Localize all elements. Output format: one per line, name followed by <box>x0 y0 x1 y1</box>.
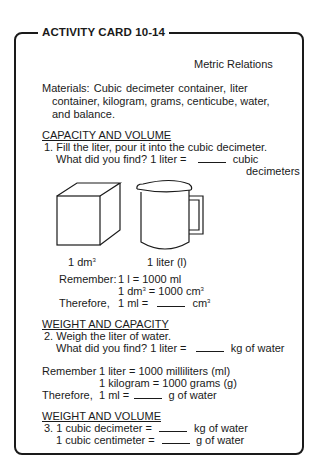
materials-line-1: Materials: Cubic decimeter container, li… <box>42 82 248 95</box>
step-2-question: What did you find? 1 liter = kg of water <box>56 342 284 355</box>
cube-icon <box>54 180 124 250</box>
question-text: What did you find? 1 liter = <box>56 153 187 165</box>
therefore-1: 1 ml = cm3 <box>118 297 210 310</box>
question-unit-2: decimeters <box>246 165 300 178</box>
therefore-label-2: Therefore, <box>42 389 93 402</box>
answer-blank[interactable] <box>157 298 185 307</box>
card-subtitle: Metric Relations <box>194 58 273 71</box>
therefore-label-1: Therefore, <box>59 297 110 310</box>
pitcher-label: 1 liter (l) <box>147 256 187 269</box>
question-unit: cubic <box>233 153 259 165</box>
answer-blank[interactable] <box>159 423 187 432</box>
materials-line-2: container, kilogram, grams, centicube, w… <box>52 95 270 108</box>
cube-label: 1 dm3 <box>68 256 96 269</box>
pitcher-icon <box>133 178 208 253</box>
remember-label-2: Remember <box>42 365 96 378</box>
answer-blank[interactable] <box>196 343 224 352</box>
remember-label-1: Remember: <box>59 273 116 286</box>
answer-blank[interactable] <box>198 154 226 163</box>
materials-line-3: and balance. <box>52 108 115 121</box>
step-1-question: What did you find? 1 liter = cubic <box>56 153 258 166</box>
card-title: ACTIVITY CARD 10-14 <box>38 25 169 39</box>
answer-blank[interactable] <box>134 390 162 399</box>
step-3-line-2: 1 cubic centimeter = g of water <box>56 434 244 447</box>
answer-blank[interactable] <box>162 435 190 444</box>
therefore-2: 1 ml = g of water <box>99 389 217 402</box>
